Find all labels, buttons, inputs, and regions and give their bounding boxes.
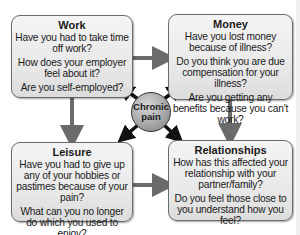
hub-to-relationships-arrow bbox=[164, 125, 177, 137]
money-question: Have you lost money because of illness? bbox=[172, 31, 289, 53]
leisure-question: What can you no longer do which you used… bbox=[15, 206, 129, 235]
hub-label-line2: pain bbox=[141, 112, 161, 122]
leisure-title: Leisure bbox=[15, 146, 129, 158]
relationships-question: How has this affected your relationship … bbox=[172, 157, 289, 190]
relationships-box: Relationships How has this affected your… bbox=[168, 140, 293, 221]
relationships-question: Do you feel those close to you understan… bbox=[172, 193, 289, 226]
work-question: Are you self-employed? bbox=[15, 82, 129, 93]
leisure-question: Have you had to give up any of your hobb… bbox=[15, 159, 129, 203]
money-title: Money bbox=[172, 18, 289, 30]
work-question: Have you had to take time off work? bbox=[15, 32, 129, 54]
money-question: Are you getting any benefits because you… bbox=[172, 92, 289, 125]
hub-to-leisure-arrow bbox=[124, 125, 138, 137]
leisure-box: Leisure Have you had to give up any of y… bbox=[11, 142, 133, 222]
money-box: Money Have you lost money because of ill… bbox=[168, 14, 293, 100]
work-box: Work Have you had to take time off work?… bbox=[11, 15, 133, 98]
chronic-pain-hub: Chronic pain bbox=[131, 92, 171, 132]
money-question: Do you think you are due compensation fo… bbox=[172, 56, 289, 89]
work-title: Work bbox=[15, 19, 129, 31]
relationships-title: Relationships bbox=[172, 144, 289, 156]
work-question: How does your employer feel about it? bbox=[15, 57, 129, 79]
